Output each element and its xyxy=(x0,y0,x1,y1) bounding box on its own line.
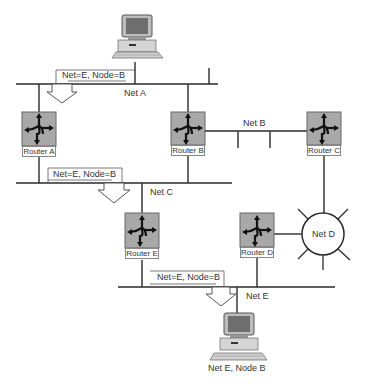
net-b-label: Net B xyxy=(243,118,266,128)
net-a-label: Net A xyxy=(124,88,146,98)
router-c-label: Router C xyxy=(307,145,341,156)
net-d-cloud xyxy=(298,209,350,270)
destination-host-label: Net E, Node B xyxy=(208,363,266,373)
network-diagram xyxy=(0,0,367,387)
router-c-icon xyxy=(307,112,341,145)
router-b-icon xyxy=(171,112,205,145)
router-a-icon xyxy=(22,112,56,146)
router-a-label: Router A xyxy=(22,146,56,157)
source-computer-icon xyxy=(112,15,163,58)
packet-1-label: Net=E, Node=B xyxy=(62,70,125,80)
net-e-label: Net E xyxy=(246,291,269,301)
packet-3-label: Net=E, Node=B xyxy=(157,272,220,282)
net-d-label: Net D xyxy=(312,229,335,239)
packet-2-label: Net=E, Node=B xyxy=(53,169,116,179)
router-d-label: Router D xyxy=(240,247,274,258)
router-d-icon xyxy=(240,213,274,247)
net-b-segment xyxy=(205,131,307,148)
destination-computer-icon xyxy=(210,313,267,360)
router-b-label: Router B xyxy=(171,145,205,156)
net-c-label: Net C xyxy=(150,187,173,197)
router-e-icon xyxy=(125,213,159,248)
router-e-label: Router E xyxy=(125,248,159,259)
